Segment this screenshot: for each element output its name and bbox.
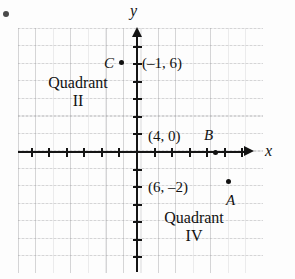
quadrant-iv-label: Quadrant IV: [148, 209, 240, 246]
coordinate-plane-figure: x y C (–1, 6) (4, 0) B (6, –2) A Quadran…: [0, 0, 295, 279]
x-axis-tick: [154, 148, 156, 157]
y-axis-arrow-icon: [132, 27, 142, 37]
y-axis-tick: [133, 116, 142, 118]
x-axis-tick: [206, 148, 208, 157]
point-c-coordinate-label: (–1, 6): [142, 56, 182, 71]
x-axis-tick: [189, 148, 191, 157]
y-axis-tick: [133, 169, 142, 171]
point-b-marker: [213, 150, 218, 155]
y-axis-tick: [133, 186, 142, 188]
x-axis-tick: [118, 148, 120, 157]
y-axis-line: [136, 36, 138, 272]
point-b-label: B: [204, 128, 213, 143]
point-b-coordinate-label: (4, 0): [148, 129, 181, 144]
point-a-coordinate-label: (6, –2): [148, 180, 188, 195]
y-axis-tick: [133, 46, 142, 48]
quadrant-iv-line2: IV: [148, 227, 240, 245]
y-axis-tick: [133, 256, 142, 258]
point-a-marker: [226, 179, 231, 184]
y-axis-tick: [133, 81, 142, 83]
scan-artifact-mark: [3, 11, 9, 17]
x-axis-tick: [66, 148, 68, 157]
x-axis-label: x: [265, 142, 272, 160]
x-axis-tick: [48, 148, 50, 157]
point-c-marker: [119, 60, 124, 65]
x-axis-tick: [31, 148, 33, 157]
x-axis-line: [18, 151, 246, 153]
x-axis-tick: [241, 148, 243, 157]
y-axis-label: y: [130, 2, 137, 20]
x-axis-tick: [101, 148, 103, 157]
y-axis-tick: [133, 221, 142, 223]
y-axis-tick: [133, 204, 142, 206]
y-axis-tick: [133, 133, 142, 135]
y-axis-tick: [133, 98, 142, 100]
quadrant-ii-label: Quadrant II: [32, 74, 124, 111]
x-axis-arrow-icon: [244, 146, 254, 156]
x-axis-tick: [224, 148, 226, 157]
point-a-label: A: [226, 193, 235, 208]
quadrant-iv-line1: Quadrant: [148, 209, 240, 227]
quadrant-ii-line1: Quadrant: [32, 74, 124, 92]
x-axis-tick: [171, 148, 173, 157]
x-axis-tick: [83, 148, 85, 157]
quadrant-ii-line2: II: [32, 92, 124, 110]
y-axis-tick: [133, 239, 142, 241]
point-c-label: C: [104, 56, 114, 71]
y-axis-tick: [133, 63, 142, 65]
